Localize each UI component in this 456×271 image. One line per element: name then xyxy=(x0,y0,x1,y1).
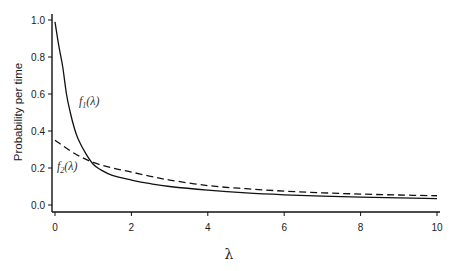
y-tick-label: 1.0 xyxy=(31,15,45,26)
y-ticks: 0.00.20.40.60.81.0 xyxy=(31,15,52,211)
y-axis-title: Probability per time xyxy=(12,63,24,161)
x-tick-label: 0 xyxy=(52,222,58,233)
x-tick-label: 10 xyxy=(431,222,443,233)
f1-label: f1(λ) xyxy=(79,94,100,110)
axes xyxy=(52,14,440,212)
y-tick-label: 0.4 xyxy=(31,126,45,137)
y-tick-label: 0.0 xyxy=(31,200,45,211)
f2-curve xyxy=(55,140,437,196)
chart: 0.00.20.40.60.81.0 0246810 Probability p… xyxy=(0,0,456,271)
y-tick-label: 0.8 xyxy=(31,52,45,63)
y-tick-label: 0.2 xyxy=(31,163,45,174)
f2-label: f2(λ) xyxy=(57,159,78,175)
series xyxy=(55,22,437,199)
x-tick-label: 8 xyxy=(358,222,364,233)
x-ticks: 0246810 xyxy=(52,212,443,233)
y-tick-label: 0.6 xyxy=(31,89,45,100)
x-tick-label: 6 xyxy=(281,222,287,233)
x-axis-title: λ xyxy=(225,246,234,262)
x-tick-label: 4 xyxy=(205,222,211,233)
x-tick-label: 2 xyxy=(129,222,135,233)
f1-curve xyxy=(55,22,437,199)
